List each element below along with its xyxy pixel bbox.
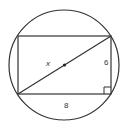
right-angle-marker xyxy=(104,87,111,94)
inscribed-rectangle-figure: x 6 8 xyxy=(0,0,124,129)
width-label: 8 xyxy=(64,101,69,110)
diagram-canvas: x 6 8 xyxy=(0,0,124,129)
diagonal-label: x xyxy=(45,59,51,68)
height-label: 6 xyxy=(104,58,109,67)
center-point xyxy=(63,63,66,66)
